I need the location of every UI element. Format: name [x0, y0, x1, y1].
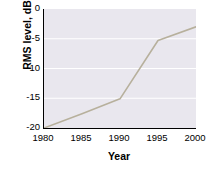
x-tick-label: 2000 — [184, 132, 205, 143]
x-axis-tick-labels: 19801985199019952000 — [43, 132, 195, 146]
y-tick-label: -15 — [26, 92, 40, 102]
x-axis-title: Year — [43, 150, 195, 162]
y-tick-label: 0 — [35, 3, 40, 13]
plot-area — [43, 9, 196, 129]
gridlines — [44, 39, 196, 99]
line-chart: RMS level, dB 0-5-10-15-20 1980198519901… — [0, 0, 208, 177]
x-tick-label: 1990 — [108, 132, 129, 143]
y-tick-label: -5 — [32, 33, 40, 43]
x-tick-label: 1980 — [32, 132, 53, 143]
data-line — [44, 27, 196, 128]
x-tick-label: 1985 — [70, 132, 91, 143]
y-axis-tick-labels: 0-5-10-15-20 — [16, 8, 40, 128]
x-tick-label: 1995 — [146, 132, 167, 143]
plot-svg — [44, 9, 196, 128]
y-tick-label: -10 — [26, 63, 40, 73]
data-series-group — [44, 27, 196, 128]
y-tick-label: -20 — [26, 122, 40, 132]
